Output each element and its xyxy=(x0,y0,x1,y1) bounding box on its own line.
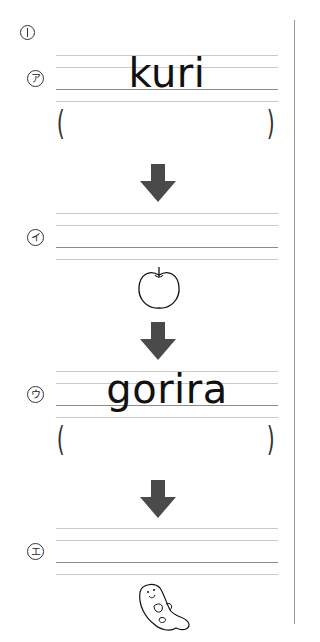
guide-line-bottom xyxy=(56,417,278,418)
romaji-word: kuri xyxy=(56,53,278,93)
guide-line-bottom xyxy=(56,574,278,575)
answer-field[interactable] xyxy=(72,424,262,458)
label-a: ア xyxy=(27,70,44,87)
arrow-down-icon xyxy=(140,322,176,360)
romaji-word: gorira xyxy=(56,369,278,409)
guide-line-bottom xyxy=(56,101,278,102)
writing-area[interactable] xyxy=(56,528,278,574)
sea-otter-icon xyxy=(132,580,196,636)
label-u: ウ xyxy=(27,386,44,403)
label-e: エ xyxy=(27,543,44,560)
open-paren: ( xyxy=(57,422,65,456)
question-number: ① xyxy=(20,25,35,40)
guide-line-bottom xyxy=(56,259,278,260)
arrow-down-icon xyxy=(140,480,176,518)
close-paren: ) xyxy=(267,422,275,456)
writing-area[interactable] xyxy=(56,213,278,259)
page-divider xyxy=(294,20,295,624)
question-number-glyph xyxy=(27,28,28,37)
arrow-down-icon xyxy=(140,164,176,202)
answer-field[interactable] xyxy=(72,108,262,142)
close-paren: ) xyxy=(267,106,275,140)
open-paren: ( xyxy=(57,106,65,140)
apple-icon xyxy=(135,265,183,311)
label-i: イ xyxy=(27,229,44,246)
